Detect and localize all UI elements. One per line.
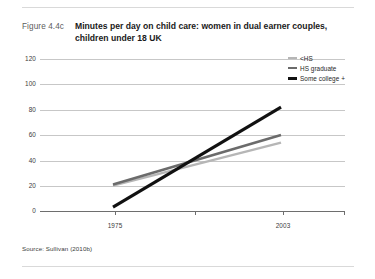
legend-swatch-hs-graduate bbox=[288, 67, 297, 69]
series-lines bbox=[0, 0, 375, 279]
legend-label-some-college: Some college + bbox=[300, 75, 345, 82]
plot-area: 120 100 80 60 40 20 0 1975 2003 bbox=[0, 0, 375, 279]
legend-item-lths: <HS bbox=[288, 53, 372, 63]
bottom-divider bbox=[22, 266, 354, 267]
legend-label-hs-graduate: HS graduate bbox=[300, 65, 336, 72]
source-note: Source: Sullivan (2010b) bbox=[22, 245, 92, 252]
series-line-hs-graduate bbox=[113, 135, 281, 184]
series-line-some-college bbox=[113, 107, 281, 207]
chart-legend: <HS HS graduate Some college + bbox=[288, 53, 372, 83]
series-line-lths bbox=[113, 143, 281, 186]
figure-container: Figure 4.4c Minutes per day on child car… bbox=[0, 0, 375, 279]
legend-swatch-lths bbox=[288, 57, 297, 59]
legend-item-hs-graduate: HS graduate bbox=[288, 63, 372, 73]
legend-label-lths: <HS bbox=[300, 55, 313, 62]
legend-item-some-college: Some college + bbox=[288, 73, 372, 83]
legend-swatch-some-college bbox=[288, 77, 297, 80]
